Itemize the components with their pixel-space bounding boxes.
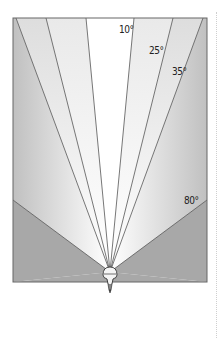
angle-label-80: 80° <box>184 195 198 206</box>
angle-label-35: 35° <box>172 66 186 77</box>
angle-label-10: 10° <box>119 24 133 35</box>
light-beam-angle-diagram: 10° 25° 35° 80° <box>0 0 220 338</box>
angle-label-25: 25° <box>149 45 163 56</box>
page-edge-divider <box>216 12 217 338</box>
beam-diagram-svg <box>0 0 220 338</box>
